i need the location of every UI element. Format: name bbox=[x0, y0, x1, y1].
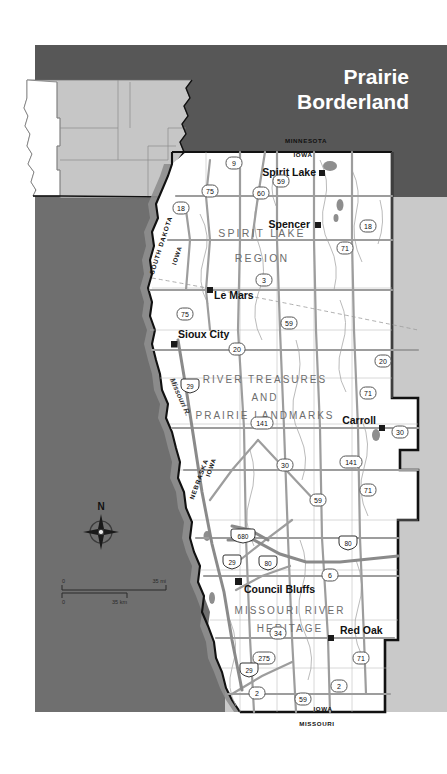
state-label-minnesota: MINNESOTA bbox=[285, 137, 327, 144]
shield-num: 59 bbox=[285, 320, 293, 327]
state-label-iowa-south: IOWA bbox=[314, 705, 333, 712]
region-spirit-lake-line1: SPIRIT LAKE bbox=[218, 227, 306, 239]
shield-num: 75 bbox=[206, 188, 214, 195]
us-shield: 71 bbox=[337, 242, 353, 254]
us-shield: 141 bbox=[340, 456, 362, 468]
shield-num: 29 bbox=[186, 383, 194, 390]
prairie-borderland-map: Prairie Borderland bbox=[0, 0, 447, 774]
shield-num: 20 bbox=[379, 358, 387, 365]
state-label-missouri: MISSOURI bbox=[299, 720, 334, 727]
shield-num: 29 bbox=[245, 667, 253, 674]
scale-zero-miles: 0 bbox=[62, 578, 65, 584]
title-line-1: Prairie bbox=[344, 65, 409, 88]
city-marker bbox=[171, 341, 178, 348]
interstate-shield: 80 bbox=[259, 556, 277, 570]
us-shield: 2 bbox=[331, 680, 347, 692]
city-marker bbox=[379, 425, 385, 431]
interstate-shield: 680 bbox=[231, 529, 255, 543]
us-shield: 30 bbox=[392, 426, 408, 438]
us-shield: 18 bbox=[360, 220, 376, 232]
us-shield: 20 bbox=[375, 355, 391, 367]
shield-num: 29 bbox=[228, 559, 236, 566]
interstate-shield: 80 bbox=[339, 536, 357, 550]
shield-num: 141 bbox=[256, 420, 268, 427]
shield-num: 20 bbox=[233, 346, 241, 353]
us-shield: 3 bbox=[256, 274, 272, 286]
us-shield: 20 bbox=[229, 343, 245, 355]
shield-num: 80 bbox=[264, 560, 272, 567]
shield-num: 75 bbox=[181, 311, 189, 318]
us-shield: 34 bbox=[270, 627, 286, 639]
shield-num: 59 bbox=[314, 497, 322, 504]
scale-label-km: 35 km bbox=[112, 599, 127, 605]
region-spirit-lake-line2: REGION bbox=[235, 252, 290, 264]
shield-num: 6 bbox=[328, 572, 332, 579]
interstate-shield: 29 bbox=[223, 555, 241, 569]
us-shield: 9 bbox=[226, 157, 242, 169]
region-river-treasures-line2: AND bbox=[251, 392, 278, 403]
shield-num: 2 bbox=[255, 690, 259, 697]
city-marker bbox=[315, 222, 321, 228]
city-label-sioux-city: Sioux City bbox=[178, 328, 230, 340]
shield-num: 80 bbox=[344, 540, 352, 547]
shield-num: 71 bbox=[364, 390, 372, 397]
shield-num: 30 bbox=[396, 429, 404, 436]
us-shield: 60 bbox=[253, 187, 269, 199]
shield-num: 275 bbox=[258, 655, 270, 662]
us-shield: 75 bbox=[177, 308, 193, 320]
city-label-spirit-lake: Spirit Lake bbox=[262, 166, 316, 178]
shield-num: 30 bbox=[281, 462, 289, 469]
scale-label-miles: 35 mi bbox=[153, 578, 166, 584]
us-shield: 71 bbox=[360, 387, 376, 399]
interstate-shield: 29 bbox=[240, 663, 258, 677]
us-shield: 141 bbox=[251, 417, 273, 429]
shield-num: 18 bbox=[177, 205, 185, 212]
compass-north-label: N bbox=[97, 501, 104, 512]
region-missouri-heritage-line1: MISSOURI RIVER bbox=[235, 605, 346, 616]
us-shield: 75 bbox=[202, 185, 218, 197]
us-shield: 275 bbox=[253, 652, 275, 664]
scale-zero-km: 0 bbox=[62, 599, 65, 605]
city-label-carroll: Carroll bbox=[342, 414, 376, 426]
region-river-treasures-line1: RIVER TREASURES bbox=[203, 374, 327, 385]
city-marker bbox=[328, 635, 334, 641]
shield-num: 141 bbox=[345, 459, 357, 466]
city-label-red-oak: Red Oak bbox=[340, 624, 383, 636]
us-shield: 18 bbox=[173, 202, 189, 214]
us-shield: 2 bbox=[249, 687, 265, 699]
shield-num: 2 bbox=[337, 683, 341, 690]
city-marker bbox=[319, 170, 325, 176]
shield-num: 59 bbox=[277, 178, 285, 185]
interstate-shield: 29 bbox=[181, 379, 199, 393]
us-shield: 59 bbox=[295, 693, 311, 705]
region-missouri-heritage-line2: HERITAGE bbox=[257, 623, 323, 634]
city-marker bbox=[207, 287, 213, 293]
us-shield: 71 bbox=[353, 652, 369, 664]
shield-num: 59 bbox=[299, 696, 307, 703]
us-shield: 30 bbox=[277, 459, 293, 471]
map-page: Prairie Borderland bbox=[0, 0, 447, 774]
us-shield: 59 bbox=[310, 494, 326, 506]
shield-num: 34 bbox=[274, 630, 282, 637]
state-label-iowa-north: IOWA bbox=[294, 151, 313, 158]
us-shield: 59 bbox=[273, 175, 289, 187]
shield-num: 60 bbox=[257, 190, 265, 197]
shield-num: 9 bbox=[232, 160, 236, 167]
shield-num: 71 bbox=[341, 245, 349, 252]
shield-num: 18 bbox=[364, 223, 372, 230]
shield-num: 71 bbox=[357, 655, 365, 662]
shield-num: 71 bbox=[364, 487, 372, 494]
title-line-2: Borderland bbox=[297, 90, 409, 113]
city-label-le-mars: Le Mars bbox=[214, 289, 254, 301]
us-shield: 71 bbox=[360, 484, 376, 496]
shield-num: 680 bbox=[238, 533, 249, 540]
city-label-council-bluffs: Council Bluffs bbox=[244, 583, 315, 595]
us-shield: 6 bbox=[322, 569, 338, 581]
compass-center bbox=[98, 529, 103, 534]
city-marker bbox=[235, 578, 242, 585]
shield-num: 3 bbox=[262, 277, 266, 284]
us-shield: 59 bbox=[281, 317, 297, 329]
